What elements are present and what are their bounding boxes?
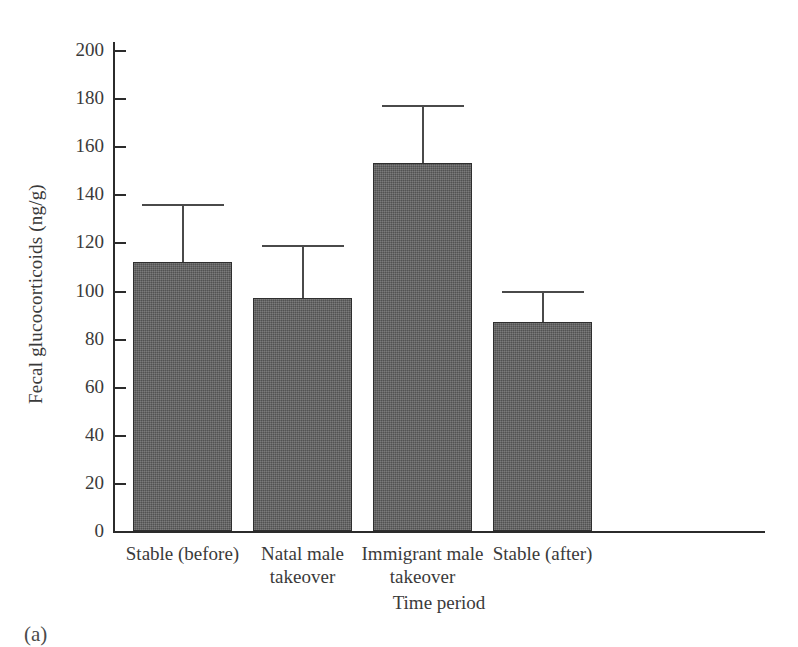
y-tick-mark: [115, 194, 126, 196]
error-bar-cap: [262, 245, 344, 247]
error-bar-cap: [382, 105, 464, 107]
y-tick-label: 0: [95, 520, 105, 542]
bar: [253, 298, 352, 531]
y-tick-label: 140: [76, 183, 105, 205]
x-axis-title: Time period: [113, 592, 765, 614]
y-tick-mark: [115, 483, 126, 485]
y-tick-label: 100: [76, 280, 105, 302]
bar: [373, 163, 472, 531]
y-tick-mark: [115, 435, 126, 437]
y-tick-label: 20: [85, 472, 104, 494]
y-tick-mark: [115, 50, 126, 52]
error-bar-cap: [502, 291, 584, 293]
plot-area: 020406080100120140160180200 Stable (befo…: [113, 42, 765, 533]
y-axis-line: [113, 42, 115, 533]
error-bar-stem: [422, 105, 424, 163]
y-tick-mark: [115, 146, 126, 148]
y-tick-label: 200: [76, 39, 105, 61]
error-bar-stem: [542, 291, 544, 322]
y-tick-label: 180: [76, 87, 105, 109]
error-bar-stem: [182, 204, 184, 262]
bar: [133, 262, 232, 531]
error-bar-cap: [142, 204, 224, 206]
x-axis-label: Stable (after): [471, 542, 614, 565]
y-tick-mark: [115, 387, 126, 389]
y-tick-mark: [115, 291, 126, 293]
panel-letter: (a): [24, 622, 47, 647]
y-tick-label: 120: [76, 231, 105, 253]
x-axis-label-line: takeover: [351, 565, 494, 588]
y-tick-mark: [115, 242, 126, 244]
y-tick-label: 40: [85, 424, 104, 446]
y-tick-label: 60: [85, 376, 104, 398]
y-tick-mark: [115, 98, 126, 100]
bar: [493, 322, 592, 531]
y-tick-mark: [115, 339, 126, 341]
y-tick-label: 160: [76, 135, 105, 157]
error-bar-stem: [302, 245, 304, 298]
x-axis-label-line: Stable (after): [471, 542, 614, 565]
x-axis-line: [113, 531, 765, 533]
y-axis-title: Fecal glucocorticoids (ng/g): [25, 94, 47, 494]
y-tick-mark: [115, 531, 126, 533]
y-tick-label: 80: [85, 328, 104, 350]
